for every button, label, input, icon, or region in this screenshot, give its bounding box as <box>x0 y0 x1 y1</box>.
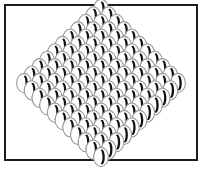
crescent-ellipse <box>90 145 114 169</box>
figure-root <box>0 0 207 173</box>
ellipse-lattice <box>0 0 207 173</box>
lattice-canvas <box>0 0 207 173</box>
cells-group <box>13 0 191 169</box>
crescent-lune-icon <box>90 145 114 169</box>
